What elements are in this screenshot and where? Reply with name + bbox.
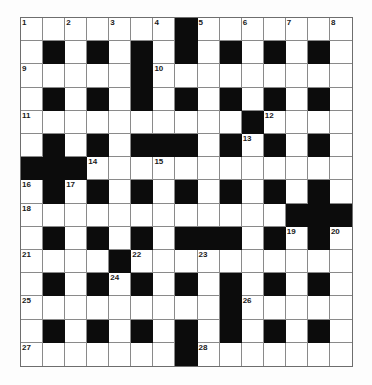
grid-cell[interactable] [109,204,131,227]
grid-cell[interactable] [109,343,131,366]
grid-cell[interactable]: 26 [242,296,264,319]
grid-cell[interactable] [242,157,264,180]
grid-cell[interactable] [330,41,352,64]
grid-cell[interactable] [175,157,197,180]
grid-cell[interactable] [242,343,264,366]
grid-cell[interactable] [330,320,352,343]
grid-cell[interactable] [153,180,175,203]
grid-cell[interactable] [220,111,242,134]
grid-cell[interactable] [43,296,65,319]
grid-cell[interactable] [131,343,153,366]
grid-cell[interactable] [264,204,286,227]
grid-cell[interactable] [220,157,242,180]
grid-cell[interactable] [308,111,330,134]
grid-cell[interactable] [65,88,87,111]
grid-cell[interactable]: 3 [109,18,131,41]
grid-cell[interactable] [21,88,43,111]
grid-cell[interactable] [330,134,352,157]
grid-cell[interactable] [153,250,175,273]
grid-cell[interactable]: 5 [198,18,220,41]
grid-cell[interactable] [109,157,131,180]
grid-cell[interactable] [198,296,220,319]
grid-cell[interactable]: 27 [21,343,43,366]
grid-cell[interactable] [198,88,220,111]
grid-cell[interactable] [175,296,197,319]
grid-cell[interactable] [43,204,65,227]
grid-cell[interactable] [286,111,308,134]
grid-cell[interactable] [131,157,153,180]
grid-cell[interactable] [43,343,65,366]
grid-cell[interactable] [131,111,153,134]
grid-cell[interactable] [286,343,308,366]
grid-cell[interactable] [109,64,131,87]
grid-cell[interactable] [242,64,264,87]
grid-cell[interactable] [198,320,220,343]
grid-cell[interactable] [286,88,308,111]
grid-cell[interactable]: 2 [65,18,87,41]
grid-cell[interactable] [198,204,220,227]
grid-cell[interactable] [220,18,242,41]
grid-cell[interactable] [264,250,286,273]
grid-cell[interactable] [308,296,330,319]
grid-cell[interactable] [242,273,264,296]
grid-cell[interactable] [286,250,308,273]
grid-cell[interactable]: 11 [21,111,43,134]
grid-cell[interactable] [153,343,175,366]
grid-cell[interactable] [330,296,352,319]
grid-cell[interactable] [330,157,352,180]
grid-cell[interactable] [242,180,264,203]
grid-cell[interactable] [153,227,175,250]
grid-cell[interactable] [286,41,308,64]
grid-cell[interactable] [21,41,43,64]
grid-cell[interactable] [198,134,220,157]
grid-cell[interactable] [242,227,264,250]
grid-cell[interactable] [43,64,65,87]
grid-cell[interactable] [65,343,87,366]
grid-cell[interactable]: 6 [242,18,264,41]
grid-cell[interactable] [286,157,308,180]
grid-cell[interactable]: 20 [330,227,352,250]
grid-cell[interactable] [242,250,264,273]
grid-cell[interactable]: 18 [21,204,43,227]
grid-cell[interactable] [21,273,43,296]
grid-cell[interactable] [65,111,87,134]
grid-cell[interactable] [308,64,330,87]
grid-cell[interactable] [264,343,286,366]
grid-cell[interactable]: 10 [153,64,175,87]
grid-cell[interactable] [153,111,175,134]
grid-cell[interactable]: 25 [21,296,43,319]
grid-cell[interactable] [330,250,352,273]
grid-cell[interactable] [175,204,197,227]
grid-cell[interactable] [330,88,352,111]
grid-cell[interactable] [87,111,109,134]
grid-cell[interactable] [109,320,131,343]
grid-cell[interactable] [308,343,330,366]
grid-cell[interactable] [220,64,242,87]
grid-cell[interactable] [220,250,242,273]
grid-cell[interactable] [264,64,286,87]
grid-cell[interactable] [43,18,65,41]
grid-cell[interactable] [286,180,308,203]
grid-cell[interactable]: 7 [286,18,308,41]
grid-cell[interactable] [242,41,264,64]
grid-cell[interactable] [242,88,264,111]
grid-cell[interactable] [308,250,330,273]
grid-cell[interactable] [65,64,87,87]
grid-cell[interactable] [65,273,87,296]
grid-cell[interactable] [264,157,286,180]
grid-cell[interactable] [153,296,175,319]
grid-cell[interactable] [286,296,308,319]
grid-cell[interactable] [242,204,264,227]
grid-cell[interactable] [87,250,109,273]
grid-cell[interactable] [65,320,87,343]
grid-cell[interactable] [286,320,308,343]
grid-cell[interactable] [308,18,330,41]
grid-cell[interactable] [131,296,153,319]
grid-cell[interactable] [198,111,220,134]
grid-cell[interactable] [21,320,43,343]
grid-cell[interactable] [43,250,65,273]
grid-cell[interactable]: 13 [242,134,264,157]
grid-cell[interactable] [131,18,153,41]
grid-cell[interactable] [65,204,87,227]
grid-cell[interactable] [109,134,131,157]
